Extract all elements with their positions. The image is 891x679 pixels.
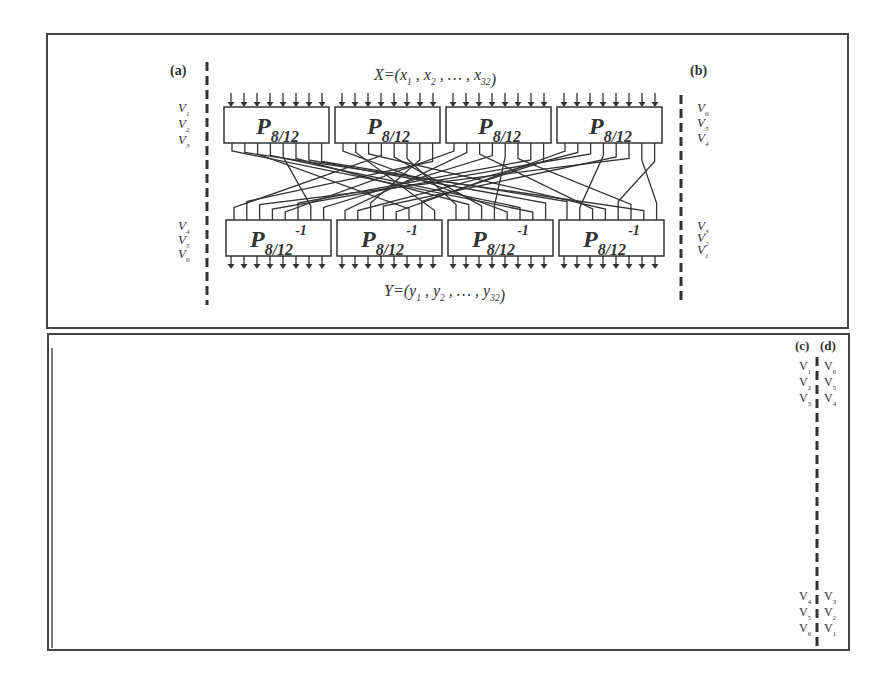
arrow-head-icon bbox=[561, 264, 568, 269]
p-box: P8/12 bbox=[224, 107, 329, 145]
label-a: (a) bbox=[170, 63, 187, 79]
permutation-network-figure: (a)(b)X=(x1 , x2 , … , x32)Y=(y1 , y2 , … bbox=[0, 0, 891, 679]
arrow-head-icon bbox=[639, 264, 646, 269]
arrow-head-icon bbox=[319, 264, 326, 269]
label-c: (c) bbox=[795, 338, 809, 353]
arrow-head-icon bbox=[365, 264, 372, 269]
arrow-head-icon bbox=[528, 264, 535, 269]
p-inverse-box: P8/12-1 bbox=[226, 220, 331, 258]
arrow-head-icon bbox=[339, 264, 346, 269]
v-label: V6 bbox=[799, 621, 812, 637]
v-label: V1 bbox=[824, 621, 836, 637]
v-label: V4 bbox=[799, 589, 812, 605]
crossing-wires bbox=[232, 143, 657, 220]
v-label: V6 bbox=[824, 359, 837, 375]
arrow-head-icon bbox=[241, 264, 248, 269]
v-label: V2 bbox=[799, 375, 811, 391]
arrow-head-icon bbox=[228, 264, 235, 269]
v-label: V1 bbox=[799, 359, 811, 375]
formula-label: X=(x1 , x2 , … , x32) bbox=[373, 66, 496, 89]
arrow-head-icon bbox=[476, 264, 483, 269]
arrow-head-icon bbox=[587, 264, 594, 269]
arrow-head-icon bbox=[502, 264, 509, 269]
arrow-head-icon bbox=[352, 264, 359, 269]
p-box: P8/12 bbox=[446, 107, 551, 145]
v-label: V2 bbox=[824, 605, 836, 621]
arrow-head-icon bbox=[463, 264, 470, 269]
v-label: V5 bbox=[799, 605, 812, 621]
formula-label: Y=(y1 , y2 , … , y32) bbox=[384, 282, 505, 305]
bottom-panel-frame bbox=[48, 334, 849, 650]
arrow-head-icon bbox=[417, 264, 424, 269]
arrow-head-icon bbox=[626, 264, 633, 269]
p-inverse-box: P8/12-1 bbox=[559, 220, 664, 258]
arrow-head-icon bbox=[254, 264, 261, 269]
arrow-head-icon bbox=[280, 264, 287, 269]
arrow-head-icon bbox=[430, 264, 437, 269]
arrow-head-icon bbox=[515, 264, 522, 269]
arrow-head-icon bbox=[652, 264, 659, 269]
v-label: V3 bbox=[824, 589, 837, 605]
p-inverse-box: P8/12-1 bbox=[337, 220, 442, 258]
top-panel: (a)(b)X=(x1 , x2 , … , x32)Y=(y1 , y2 , … bbox=[47, 34, 848, 328]
p-box: P8/12 bbox=[335, 107, 440, 145]
arrow-head-icon bbox=[267, 264, 274, 269]
p-box: P8/12 bbox=[557, 107, 662, 145]
arrow-head-icon bbox=[541, 264, 548, 269]
arrow-head-icon bbox=[574, 264, 581, 269]
v-label: V4 bbox=[824, 391, 837, 407]
label-b: (b) bbox=[690, 63, 707, 79]
label-d: (d) bbox=[820, 338, 836, 353]
bottom-panel: (c)(d)V1V2V3V6V5V4V4V5V6V3V2V1 bbox=[48, 334, 849, 650]
v-label: V3 bbox=[799, 391, 812, 407]
arrow-head-icon bbox=[404, 264, 411, 269]
p-inverse-box: P8/12-1 bbox=[448, 220, 553, 258]
arrow-head-icon bbox=[600, 264, 607, 269]
arrow-head-icon bbox=[450, 264, 457, 269]
arrow-head-icon bbox=[293, 264, 300, 269]
arrow-head-icon bbox=[306, 264, 313, 269]
arrow-head-icon bbox=[391, 264, 398, 269]
v-label: V5 bbox=[824, 375, 837, 391]
arrow-head-icon bbox=[378, 264, 385, 269]
arrow-head-icon bbox=[489, 264, 496, 269]
arrow-head-icon bbox=[613, 264, 620, 269]
v-label: V3 bbox=[178, 132, 190, 150]
